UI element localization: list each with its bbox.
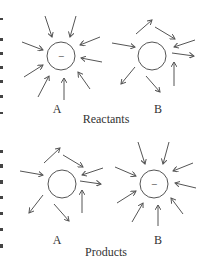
- reactant-b-molecule: B: [112, 20, 195, 116]
- product-b-molecule: − B: [115, 142, 196, 247]
- charge-sign: −: [151, 178, 157, 190]
- clipped-text-fragment: [0, 212, 3, 215]
- clipped-text-fragment: [0, 244, 3, 248]
- clipped-text-fragment: [0, 180, 3, 184]
- arrows: [20, 148, 103, 221]
- molecule-label: A: [53, 102, 62, 116]
- clipped-text-fragment: [0, 80, 3, 83]
- clipped-text-fragment: [0, 18, 3, 20]
- charge-sign: −: [58, 50, 64, 62]
- molecule-label: B: [154, 233, 162, 247]
- product-a-molecule: A: [20, 148, 103, 247]
- clipped-text-fragment: [0, 66, 3, 69]
- molecule-label: B: [154, 102, 162, 116]
- panel-caption-reactants: Reactants: [83, 112, 130, 126]
- molecule-circle: [138, 42, 166, 70]
- arrows: [112, 20, 195, 92]
- clipped-text-fragment: [0, 150, 3, 153]
- molecule-circle: [48, 170, 76, 198]
- clipped-text-fragment: [0, 95, 3, 98]
- reactant-a-molecule: − A: [22, 16, 102, 116]
- molecule-label: A: [53, 233, 62, 247]
- clipped-text-fragment: [0, 52, 3, 55]
- clipped-text-fragment: [0, 164, 3, 168]
- panel-caption-products: Products: [85, 245, 127, 259]
- clipped-text-fragment: [0, 196, 3, 199]
- clipped-text-fragment: [0, 112, 3, 114]
- clipped-text-fragment: [0, 228, 3, 231]
- solvation-diagram: − A B Reactants: [0, 0, 206, 259]
- clipped-text-fragment: [0, 38, 3, 41]
